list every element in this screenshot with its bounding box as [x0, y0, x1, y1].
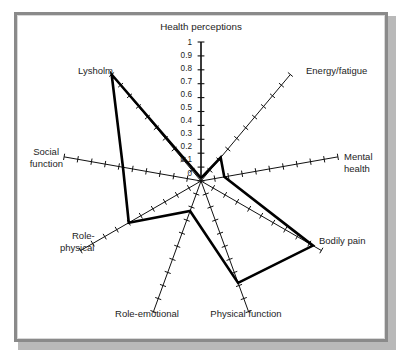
tick-label-0.7: 0.7: [181, 77, 193, 86]
radar-axis-tick: [236, 199, 239, 205]
radar-axis-tick: [296, 161, 297, 167]
axis-label-social-function-line1: Social: [33, 146, 59, 157]
radar-axis-tick: [118, 163, 119, 169]
radar-axis-tick: [324, 156, 325, 162]
axis-label-physical-function: Physical function: [210, 308, 281, 319]
radar-axis-tick: [284, 227, 287, 233]
radar-axis-tick: [163, 199, 166, 205]
tick-label-0.9: 0.9: [181, 51, 193, 60]
radar-axis-tick: [64, 154, 65, 160]
radar-axis-tick: [105, 161, 106, 167]
tick-label-0.5: 0.5: [181, 103, 193, 112]
radar-axis-tick: [269, 166, 270, 172]
radar-axis-tick: [214, 175, 215, 181]
axis-label-health-perceptions: Health perceptions: [160, 21, 242, 32]
axis-label-lysholm: Lysholm: [78, 65, 113, 76]
radar-axis-tick: [132, 166, 133, 172]
axis-label-role-physical-line1: Role-: [72, 230, 95, 241]
axis-label-bodily-pain: Bodily pain: [319, 235, 365, 246]
radar-axis-tick: [223, 192, 226, 198]
radar-axis-tick: [310, 159, 311, 165]
radar-axis-tick: [242, 171, 243, 177]
axis-label-role-emotional: Role-emotional: [115, 308, 179, 319]
radar-axis-tick: [255, 168, 256, 174]
radar-axis-tick: [103, 234, 106, 240]
tick-label-0: 0: [187, 169, 192, 178]
radar-axis-tick: [91, 159, 92, 165]
radar-axis-tick: [175, 192, 178, 198]
tick-label-0.4: 0.4: [181, 116, 193, 125]
radar-axis-tick: [272, 220, 275, 226]
radar-chart-figure: 1 0.9 0.8 0.7 0.6 0.5 0.4 0.3 0.2 0.1 0 …: [0, 0, 408, 363]
tick-label-0.2: 0.2: [181, 142, 193, 151]
radar-axis-tick: [320, 248, 323, 254]
tick-label-0.8: 0.8: [181, 64, 193, 73]
radar-axis-tick: [159, 171, 160, 177]
radar-axis-tick: [260, 213, 263, 219]
axis-label-mental-health-line2: health: [344, 163, 370, 174]
radar-axis-tick: [248, 206, 251, 212]
radar-axis-tick: [115, 227, 118, 233]
radar-axis-tick: [187, 185, 190, 191]
radar-axis-tick: [139, 213, 142, 219]
axis-label-mental-health-line1: Mental: [344, 151, 373, 162]
axis-label-role-physical-line2: physical: [60, 242, 94, 253]
radar-axis-tick: [146, 168, 147, 174]
tick-label-0.6: 0.6: [181, 90, 193, 99]
y-axis-scale: [198, 42, 205, 181]
tick-label-0.3: 0.3: [181, 129, 193, 138]
axis-label-energy-fatigue: Energy/fatigue: [306, 65, 367, 76]
radar-axis-tick: [77, 156, 78, 162]
radar-axis-tick: [211, 185, 214, 191]
radar-axis-tick: [151, 206, 154, 212]
axis-label-social-function-line2: function: [30, 158, 63, 169]
radar-axis-tick: [337, 154, 338, 160]
tick-label-1: 1: [187, 38, 192, 47]
radar-axis-tick: [173, 173, 174, 179]
radar-axis-tick: [283, 163, 284, 169]
radar-plot: 1 0.9 0.8 0.7 0.6 0.5 0.4 0.3 0.2 0.1 0 …: [14, 12, 388, 342]
